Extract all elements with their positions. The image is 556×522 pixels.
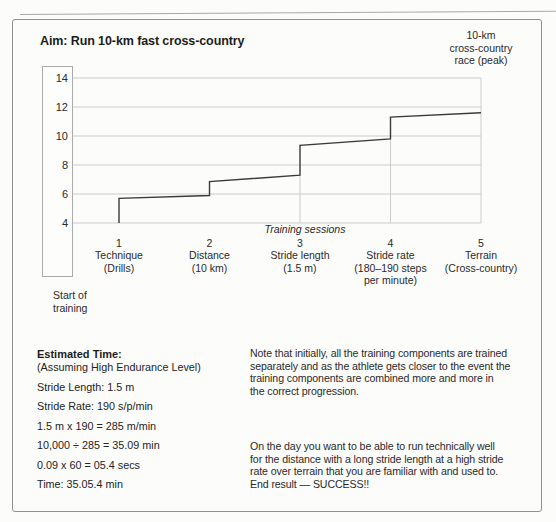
estimated-time-heading: Estimated Time: [37, 348, 242, 360]
scanned-figure-page: { "colors": { "grid": "#cccccc", "step_l… [0, 0, 556, 522]
estimated-time-line: Time: 35.05.4 min [37, 479, 242, 491]
estimated-time-line: 0.09 x 60 = 05.4 secs [37, 460, 242, 472]
estimated-time-line: 10,000 ÷ 285 = 35.09 min [37, 440, 242, 452]
estimated-time-line: 1.5 m x 190 = 285 m/min [37, 421, 242, 433]
start-of-training-label: Start of training [53, 289, 87, 314]
y-tick-label: 6 [44, 188, 68, 200]
estimated-time-line: Stride Length: 1.5 m [37, 382, 242, 394]
x-axis-title: Training sessions [250, 223, 360, 235]
session-label-line: (Cross-country) [426, 262, 536, 274]
estimated-time-block: Estimated Time: (Assuming High Endurance… [37, 348, 242, 491]
note-paragraph-2: On the day you want to be able to run te… [250, 440, 522, 490]
y-tick-label: 8 [44, 159, 68, 171]
note-paragraph-1: Note that initially, all the training co… [250, 347, 522, 397]
y-tick-label: 14 [44, 72, 68, 84]
step-chart [0, 0, 556, 330]
session-label-line: Terrain [426, 249, 536, 261]
session-label-line: per minute) [336, 274, 446, 286]
y-tick-label: 4 [44, 217, 68, 229]
y-tick-label: 12 [44, 101, 68, 113]
y-tick-label: 10 [44, 130, 68, 142]
session-number: 5 [426, 237, 536, 249]
estimated-time-calculations: Stride Length: 1.5 mStride Rate: 190 s/p… [37, 382, 242, 491]
session-label: 5Terrain(Cross-country) [426, 237, 536, 274]
estimated-time-subheading: (Assuming High Endurance Level) [37, 361, 242, 374]
estimated-time-line: Stride Rate: 190 s/p/min [37, 401, 242, 413]
